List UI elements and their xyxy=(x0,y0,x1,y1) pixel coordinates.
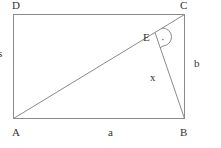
label-b-point: B xyxy=(180,126,187,138)
label-side-x: x xyxy=(150,71,156,83)
segment-be xyxy=(155,33,185,119)
label-side-a: a xyxy=(108,126,113,138)
right-angle-dot: · xyxy=(161,33,165,45)
label-d: D xyxy=(12,0,20,11)
label-side-b: b xyxy=(194,57,200,69)
label-a-point: A xyxy=(12,126,20,138)
label-left-fragment: s xyxy=(0,47,2,59)
geometry-diagram: · D C A B E a b x s xyxy=(0,0,221,148)
label-e: E xyxy=(143,31,150,43)
label-c: C xyxy=(180,0,187,11)
diagonal-ac xyxy=(14,15,185,119)
